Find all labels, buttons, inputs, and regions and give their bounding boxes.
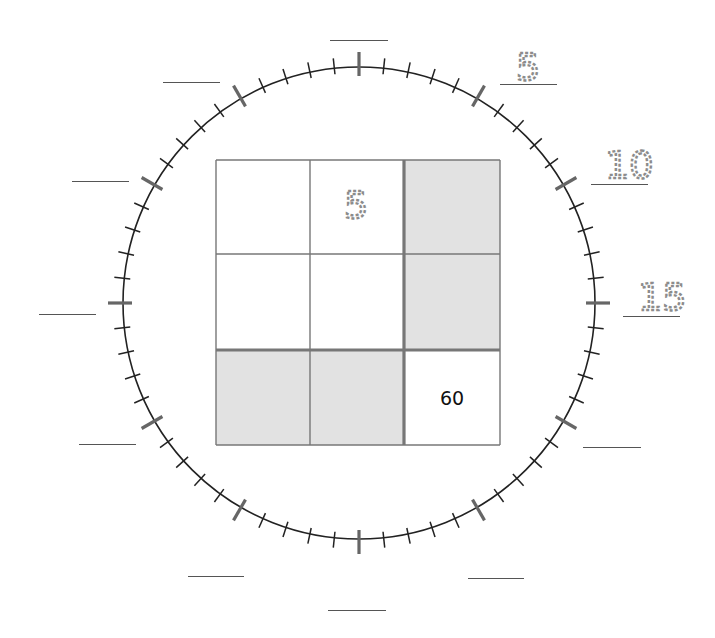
- major-tick-mark: [556, 417, 577, 429]
- major-tick-mark: [473, 500, 485, 521]
- svg-text:5: 5: [516, 45, 540, 88]
- minor-tick-mark: [453, 513, 460, 528]
- minor-tick-mark: [578, 374, 593, 379]
- minor-tick-mark: [134, 397, 149, 404]
- minor-tick-mark: [134, 203, 149, 210]
- minor-tick-mark: [125, 374, 140, 379]
- minor-tick-mark: [383, 58, 385, 74]
- minor-tick-mark: [259, 78, 266, 93]
- minor-tick-mark: [430, 69, 435, 84]
- answer-blank-30[interactable]: [328, 610, 386, 611]
- minor-tick-mark: [588, 277, 604, 279]
- minor-tick-mark: [584, 351, 600, 354]
- minor-tick-mark: [407, 528, 410, 544]
- minor-tick-mark: [430, 522, 435, 537]
- answer-blank-50[interactable]: [72, 181, 129, 182]
- grid-lines: [215, 159, 501, 446]
- minor-tick-mark: [407, 62, 410, 78]
- minor-tick-mark: [283, 522, 288, 537]
- answer-blank-45[interactable]: [39, 314, 96, 315]
- traced-number-5: 5: [514, 44, 544, 88]
- traced-number-10: 10: [603, 142, 656, 186]
- major-tick-mark: [556, 178, 577, 190]
- minor-tick-mark: [453, 78, 460, 93]
- minor-tick-mark: [125, 227, 140, 232]
- answer-blank-35[interactable]: [188, 576, 244, 577]
- minor-tick-mark: [308, 62, 311, 78]
- minor-tick-mark: [259, 513, 266, 528]
- svg-text:15: 15: [638, 275, 686, 318]
- answer-blank-55[interactable]: [163, 82, 220, 83]
- major-tick-mark: [234, 500, 246, 521]
- minor-tick-mark: [333, 532, 335, 548]
- minor-tick-mark: [114, 277, 130, 279]
- minor-tick-mark: [584, 252, 600, 255]
- minor-tick-mark: [118, 252, 134, 255]
- minor-tick-mark: [569, 203, 584, 210]
- answer-blank-40[interactable]: [79, 444, 136, 445]
- answer-blank-20[interactable]: [583, 447, 641, 448]
- minor-tick-mark: [118, 351, 134, 354]
- minor-tick-mark: [588, 327, 604, 329]
- answer-blank-25[interactable]: [468, 578, 524, 579]
- minor-tick-mark: [114, 327, 130, 329]
- minor-tick-mark: [333, 58, 335, 74]
- minor-tick-mark: [383, 532, 385, 548]
- major-tick-mark: [234, 86, 246, 107]
- svg-text:10: 10: [605, 143, 653, 186]
- minor-tick-mark: [283, 69, 288, 84]
- minor-tick-mark: [569, 397, 584, 404]
- major-tick-mark: [142, 417, 163, 429]
- major-tick-mark: [473, 86, 485, 107]
- traced-number-15: 15: [636, 274, 689, 318]
- minor-tick-mark: [578, 227, 593, 232]
- answer-blank-0[interactable]: [330, 40, 388, 41]
- multiplication-grid: 560: [216, 160, 500, 445]
- major-tick-mark: [142, 178, 163, 190]
- minor-tick-mark: [308, 528, 311, 544]
- clock-multiples-worksheet: 51015 560: [0, 0, 715, 638]
